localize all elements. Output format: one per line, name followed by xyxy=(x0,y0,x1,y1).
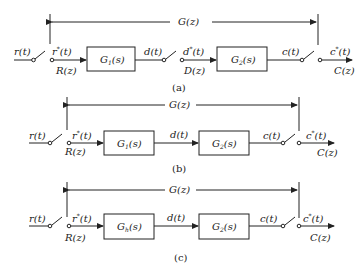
sampler-contact xyxy=(48,141,52,145)
sampler-contact xyxy=(318,58,322,62)
sampler-switch xyxy=(35,51,45,59)
transfer-label: G(z) xyxy=(178,16,199,27)
sampler-switch xyxy=(285,217,295,225)
input-z-label: R(z) xyxy=(64,146,86,157)
sampler-switch xyxy=(52,134,62,142)
output-label: c(t) xyxy=(260,213,278,224)
sampled-input-label: r*(t) xyxy=(72,212,92,224)
sampler-switch xyxy=(304,51,314,59)
transfer-label: G(z) xyxy=(169,99,190,110)
sampler-contact xyxy=(48,224,52,228)
sampler-contact xyxy=(32,58,36,62)
output-label: c(t) xyxy=(263,130,281,141)
sampled-system-block-diagrams: G(z) r(t) r*(t) R(z) G1(s) d(t) d*(t) D(… xyxy=(0,0,360,278)
sampled-input-label: r*(t) xyxy=(72,129,92,141)
output-z-label: C(z) xyxy=(317,147,338,158)
caption-c: (c) xyxy=(174,252,188,263)
sampler-contact xyxy=(162,58,166,62)
caption-a: (a) xyxy=(172,82,186,93)
sampler-contact xyxy=(50,58,54,62)
block-g1-label: G1(s) xyxy=(117,138,142,150)
sampler-switch xyxy=(52,217,62,225)
block-g1-label: G1(s) xyxy=(100,54,125,66)
block-g2-label: G2(s) xyxy=(212,138,237,150)
output-z-label: C(z) xyxy=(310,232,331,243)
input-label: r(t) xyxy=(29,130,46,141)
sampler-contact xyxy=(300,58,304,62)
input-label: r(t) xyxy=(14,46,31,57)
output-label: c(t) xyxy=(282,46,300,57)
sampler-contact xyxy=(67,141,71,145)
block-g2-label: G2(s) xyxy=(212,221,237,233)
sampler-switch xyxy=(285,134,295,142)
input-z-label: R(z) xyxy=(64,232,86,243)
input-z-label: R(z) xyxy=(55,65,77,76)
sampled-output-label: c*(t) xyxy=(306,129,327,141)
sampler-contact xyxy=(281,141,285,145)
diagram-c-labels: G(z) r(t) r*(t) R(z) Gh(s) d(t) G2(s) c(… xyxy=(29,184,331,263)
mid-z-label: D(z) xyxy=(183,65,205,76)
mid-sampled-label: d*(t) xyxy=(183,45,204,57)
sampled-output-label: c*(t) xyxy=(330,45,351,57)
caption-b: (b) xyxy=(172,163,186,174)
sampler-contact xyxy=(297,224,301,228)
diagram-a-labels: G(z) r(t) r*(t) R(z) G1(s) d(t) d*(t) D(… xyxy=(14,16,355,93)
input-label: r(t) xyxy=(29,213,46,224)
output-z-label: C(z) xyxy=(334,65,355,76)
sampler-contact xyxy=(297,141,301,145)
sampled-output-label: c*(t) xyxy=(303,212,324,224)
transfer-label: G(z) xyxy=(169,184,190,195)
mid-signal-label: d(t) xyxy=(170,129,188,140)
sampler-contact xyxy=(281,224,285,228)
sampled-input-label: r*(t) xyxy=(52,45,72,57)
block-g2-label: G2(s) xyxy=(231,54,256,66)
mid-signal-label: d(t) xyxy=(167,212,185,223)
block-gh-label: Gh(s) xyxy=(117,221,142,233)
sampler-contact xyxy=(180,58,184,62)
sampler-contact xyxy=(67,224,71,228)
mid-signal-label: d(t) xyxy=(144,46,162,57)
sampler-switch xyxy=(166,51,176,59)
